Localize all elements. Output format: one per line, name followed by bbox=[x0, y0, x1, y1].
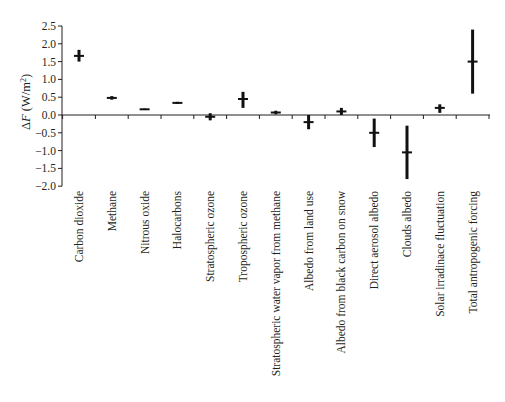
y-tick-label: 0.5 bbox=[42, 91, 57, 103]
data-point bbox=[74, 50, 84, 62]
category-label: Halocarbons bbox=[171, 190, 183, 249]
y-tick-label: −2.0 bbox=[35, 180, 56, 192]
y-tick-label: 1.0 bbox=[42, 73, 57, 85]
data-point bbox=[107, 96, 117, 100]
data-point bbox=[140, 109, 150, 110]
data-point bbox=[435, 104, 445, 113]
category-label: Solar irradinace fluctuation bbox=[434, 191, 446, 317]
category-labels: Carbon dioxideMethaneNitrous oxideHaloca… bbox=[73, 190, 480, 376]
category-label: Direct aerosol albedo bbox=[368, 191, 380, 290]
data-point bbox=[172, 102, 182, 104]
category-label: Stratospheric ozone bbox=[204, 191, 217, 282]
y-axis-title: ΔF (W/m2) bbox=[19, 74, 34, 130]
data-point bbox=[271, 111, 281, 115]
category-label: Carbon dioxide bbox=[73, 191, 85, 262]
y-tick-label: 1.5 bbox=[42, 56, 57, 68]
y-tick-label: 0.0 bbox=[42, 109, 57, 121]
x-axis-zero-line bbox=[62, 115, 490, 119]
data-point bbox=[336, 108, 346, 115]
category-label: Clouds albedo bbox=[401, 191, 413, 257]
error-bar-series bbox=[74, 30, 478, 180]
category-label: Methane bbox=[106, 191, 118, 231]
data-point bbox=[468, 30, 478, 94]
y-axis-title-text: ΔF (W/m2) bbox=[19, 74, 34, 130]
y-tick-label: −1.0 bbox=[35, 145, 56, 157]
category-label: Albedo from land use bbox=[303, 191, 315, 291]
data-point bbox=[369, 119, 379, 147]
category-label: Stratospheric water vapor from methane bbox=[270, 191, 283, 376]
data-point bbox=[304, 115, 314, 129]
category-label: Total antropogenic forcing bbox=[467, 191, 480, 314]
y-tick-label: 2.5 bbox=[42, 20, 57, 32]
category-label: Tropospheric ozone bbox=[237, 191, 250, 282]
data-point bbox=[402, 126, 412, 179]
category-label: Albedo from black carbon on snow bbox=[335, 190, 347, 353]
y-tick-label: −1.5 bbox=[35, 162, 56, 174]
y-tick-label: −0.5 bbox=[35, 127, 56, 139]
y-tick-label: 2.0 bbox=[42, 38, 57, 50]
data-point bbox=[205, 113, 215, 120]
data-point bbox=[238, 92, 248, 108]
y-axis: 2.52.01.51.00.50.0−0.5−1.0−1.5−2.0 bbox=[35, 20, 62, 192]
category-label: Nitrous oxide bbox=[139, 191, 151, 254]
radiative-forcing-chart: 2.52.01.51.00.50.0−0.5−1.0−1.5−2.0 ΔF (W… bbox=[0, 0, 505, 402]
